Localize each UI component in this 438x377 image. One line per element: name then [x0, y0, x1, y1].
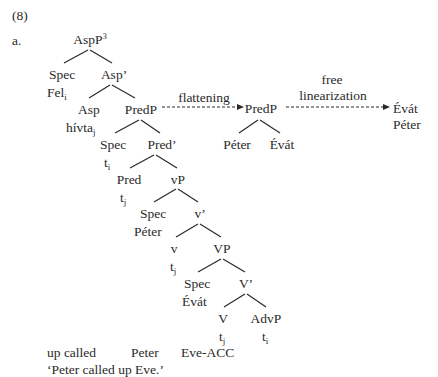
node-VP: VP [213, 242, 230, 256]
filler-tj-V: tj [219, 330, 225, 344]
node-v-bar: v’ [194, 207, 205, 221]
filler-ti-spec: ti [104, 156, 110, 170]
linearized-word-2: Péter [393, 118, 421, 132]
node-aspp: AspP3 [73, 33, 106, 47]
node-spec-aspp: Spec [49, 68, 75, 82]
linearization-label-line2: linearization [299, 89, 366, 103]
filler-hivta: hívtaj [66, 121, 96, 135]
translation: ‘Peter called up Eve.’ [47, 363, 164, 377]
example-sub-label: a. [12, 34, 21, 48]
arrowhead-icon [383, 104, 390, 110]
node-vp-small: vP [171, 173, 185, 187]
gloss-eve-acc: Eve-ACC [181, 346, 234, 360]
filler-peter: Péter [134, 225, 162, 239]
node-asp: Asp [78, 103, 100, 117]
gloss-up-called: up called [47, 346, 96, 360]
node-spec-predp: Spec [100, 138, 126, 152]
filler-tj-v: tj [170, 260, 176, 274]
node-v: v [171, 242, 178, 256]
flattened-child-peter: Péter [223, 138, 251, 152]
node-pred: Pred [117, 173, 142, 187]
node-advp: AdvP [251, 312, 282, 326]
gloss-peter: Peter [131, 346, 159, 360]
linearization-label-line1: free [322, 73, 343, 87]
node-V: V [218, 312, 228, 326]
linearized-word-1: Évát [393, 102, 418, 116]
filler-fel: Feli [47, 86, 67, 100]
flattened-predp: PredP [245, 102, 277, 116]
node-spec-VP: Spec [184, 277, 210, 291]
flattening-label: flattening [178, 91, 230, 105]
node-predp: PredP [125, 103, 157, 117]
example-number: (8) [12, 9, 28, 23]
node-V-bar: V’ [239, 277, 253, 291]
node-pred-bar: Pred’ [147, 138, 176, 152]
node-spec-vp: Spec [140, 207, 166, 221]
node-asp-bar: Asp’ [101, 68, 127, 82]
filler-tj-pred: tj [120, 191, 126, 205]
flattened-child-evat: Évát [270, 138, 295, 152]
filler-ti-advp: ti [262, 330, 268, 344]
filler-evat: Évát [182, 295, 207, 309]
arrowhead-icon [237, 104, 244, 110]
